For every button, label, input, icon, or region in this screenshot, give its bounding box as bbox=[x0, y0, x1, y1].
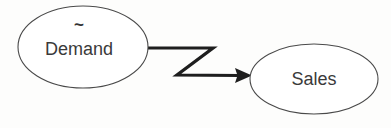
causal-diagram: ~ Demand Sales bbox=[0, 0, 391, 128]
diagram-canvas: ~ Demand Sales bbox=[0, 0, 391, 128]
node-demand[interactable]: ~ Demand bbox=[18, 6, 148, 88]
node-demand-tilde-icon: ~ bbox=[74, 15, 84, 34]
node-sales-label: Sales bbox=[291, 69, 336, 89]
node-sales[interactable]: Sales bbox=[250, 44, 378, 114]
edge-demand-to-sales[interactable] bbox=[148, 48, 252, 83]
node-demand-label: Demand bbox=[45, 39, 113, 59]
edge-zigzag-line bbox=[148, 48, 240, 76]
arrowhead-icon bbox=[235, 68, 252, 83]
